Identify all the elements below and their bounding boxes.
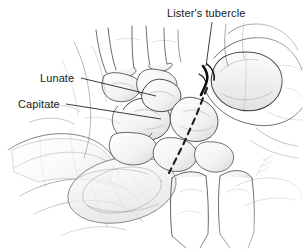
label-listers-tubercle: Lister's tubercle bbox=[167, 7, 245, 19]
illustration-artwork bbox=[0, 0, 303, 251]
label-capitate: Capitate bbox=[18, 98, 60, 110]
leader-line-listers-tubercle bbox=[206, 22, 212, 66]
label-lunate: Lunate bbox=[40, 72, 74, 84]
metacarpals bbox=[96, 26, 181, 78]
radius-ulna bbox=[171, 171, 255, 248]
artist-signature bbox=[256, 155, 272, 176]
examiner-thumb-right bbox=[206, 24, 302, 158]
wrist-anatomy-figure: Lister's tubercle Lunate Capitate bbox=[0, 0, 303, 251]
